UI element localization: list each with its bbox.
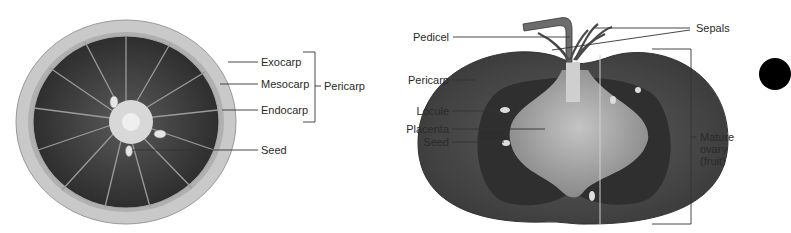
label-mature-ovary-line1: Mature (700, 131, 734, 143)
label-seed-tomato: Seed (400, 136, 449, 148)
label-sepals: Sepals (696, 22, 730, 34)
label-endocarp: Endocarp (261, 104, 308, 116)
citrus-cross-section-illustration (0, 0, 791, 233)
black-dot-marker (759, 58, 791, 90)
label-pericarp-tomato: Pericarp (395, 74, 449, 86)
fruit-anatomy-diagram: Exocarp Mesocarp Endocarp Pericarp Seed … (0, 0, 791, 233)
label-exocarp: Exocarp (261, 56, 301, 68)
label-mature-ovary-line2: ovary (700, 143, 727, 155)
label-mesocarp: Mesocarp (261, 78, 309, 90)
label-mature-ovary-line3: (fruit) (700, 155, 726, 167)
label-pericarp-citrus: Pericarp (324, 80, 365, 92)
label-placenta: Placenta (395, 123, 449, 135)
label-pedicel: Pedicel (400, 31, 449, 43)
label-seed-citrus: Seed (261, 144, 287, 156)
label-locule: Locule (400, 105, 449, 117)
